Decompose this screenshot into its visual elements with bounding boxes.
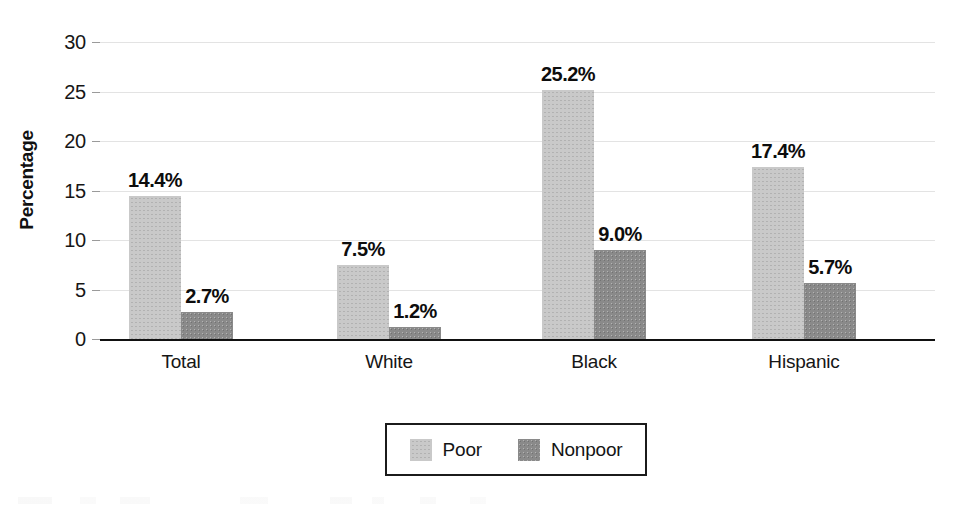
y-tick-label-25: 25	[64, 80, 86, 103]
bar-hispanic-poor	[752, 167, 804, 339]
bar-total-nonpoor	[181, 312, 233, 339]
bar-total-poor	[129, 196, 181, 339]
bar-black-nonpoor	[594, 250, 646, 339]
y-tick-label-15: 15	[64, 179, 86, 202]
chart-legend: Poor Nonpoor	[385, 423, 647, 476]
bar-value-black-poor: 25.2%	[541, 63, 595, 86]
legend-label-nonpoor: Nonpoor	[551, 439, 622, 461]
y-tick-label-10: 10	[64, 229, 86, 252]
x-tick-label-white: White	[365, 351, 413, 373]
gridline-20	[100, 141, 935, 142]
bar-value-black-nonpoor: 9.0%	[598, 223, 642, 246]
y-tick-label-0: 0	[75, 328, 86, 351]
legend-swatch-poor-icon	[410, 439, 432, 461]
gridline-15	[100, 191, 935, 192]
bar-value-hispanic-nonpoor: 5.7%	[808, 256, 852, 279]
bar-white-poor	[337, 265, 389, 339]
y-tick-label-30: 30	[64, 31, 86, 54]
gridline-25	[100, 92, 935, 93]
bar-hispanic-nonpoor	[804, 283, 856, 339]
x-axis-baseline	[100, 339, 935, 341]
legend-item-nonpoor: Nonpoor	[518, 439, 622, 461]
legend-item-poor: Poor	[410, 439, 482, 461]
y-tick-label-5: 5	[75, 278, 86, 301]
y-tick-label-20: 20	[64, 130, 86, 153]
legend-label-poor: Poor	[443, 439, 482, 461]
gridline-10	[100, 240, 935, 241]
bar-white-nonpoor	[389, 327, 441, 339]
plot-area: 14.4%2.7%7.5%1.2%25.2%9.0%17.4%5.7%	[100, 42, 935, 339]
bar-black-poor	[542, 90, 594, 339]
bar-value-hispanic-poor: 17.4%	[751, 140, 805, 163]
scan-bleed-artifact	[0, 483, 955, 509]
y-axis-ticks: 051015202530	[0, 0, 86, 339]
bar-chart-figure: Percentage 051015202530 14.4%2.7%7.5%1.2…	[0, 0, 955, 509]
x-tick-label-hispanic: Hispanic	[768, 351, 839, 373]
bar-value-white-poor: 7.5%	[341, 238, 385, 261]
x-tick-label-black: Black	[571, 351, 616, 373]
bar-value-white-nonpoor: 1.2%	[393, 300, 437, 323]
bar-value-total-poor: 14.4%	[128, 169, 182, 192]
bar-value-total-nonpoor: 2.7%	[185, 285, 229, 308]
gridline-30	[100, 42, 935, 43]
x-tick-label-total: Total	[161, 351, 200, 373]
legend-swatch-nonpoor-icon	[518, 439, 540, 461]
